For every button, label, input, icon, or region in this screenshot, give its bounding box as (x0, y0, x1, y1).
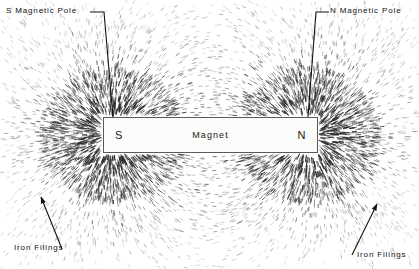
callout-label-iron-filings-left: Iron Filings (14, 243, 63, 252)
leader-arrow-filings-right (352, 204, 377, 255)
callout-label-s-magnetic-pole: S Magnetic Pole (6, 6, 77, 15)
magnetic-field-figure: S Magnet N S Magnetic Pole N Magnetic Po… (0, 0, 419, 269)
leader-line-n-pole (308, 12, 329, 117)
leader-arrow-filings-left (41, 197, 62, 249)
leader-line-s-pole (90, 12, 113, 117)
callout-leader-lines (0, 0, 419, 269)
callout-label-iron-filings-right: Iron Filings (357, 250, 406, 259)
callout-label-n-magnetic-pole: N Magnetic Pole (330, 6, 401, 15)
